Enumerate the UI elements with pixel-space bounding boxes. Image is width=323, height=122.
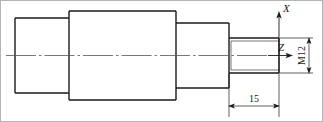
z-axis-label: Z [278, 41, 285, 53]
x-axis-label: X [282, 2, 291, 14]
technical-drawing-canvas: X Z M12 15 [0, 0, 323, 122]
thread-size-label: M12 [296, 46, 307, 65]
part-drawing-svg: X Z M12 15 [0, 0, 323, 122]
length-dimension-label: 15 [249, 93, 259, 104]
